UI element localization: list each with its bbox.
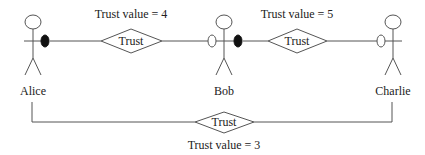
trust-value-label: Trust value = 4 [95, 7, 168, 21]
open-port-icon [208, 35, 216, 47]
trust-value-label: Trust value = 5 [261, 7, 334, 21]
trust-value-label: Trust value = 3 [188, 138, 261, 152]
filled-port-icon [41, 35, 49, 47]
actor-bob-figure [208, 15, 242, 75]
actor-bob-label: Bob [214, 84, 234, 98]
trust-diagram: Alice Bob Charlie Trust Trust Trust Trus… [0, 0, 425, 155]
actor-charlie-figure [377, 15, 402, 75]
relation-label: Trust [212, 115, 238, 129]
open-port-icon [377, 35, 385, 47]
relation-label: Trust [285, 34, 311, 48]
relation-label: Trust [119, 34, 145, 48]
filled-port-icon [234, 35, 242, 47]
actor-alice-figure [24, 15, 49, 75]
actor-alice-label: Alice [20, 84, 46, 98]
actor-charlie-label: Charlie [375, 84, 410, 98]
